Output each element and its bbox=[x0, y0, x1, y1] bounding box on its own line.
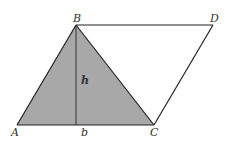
label-d-vertex: D bbox=[209, 12, 219, 25]
label-b-vertex: B bbox=[72, 12, 81, 25]
label-height-h: h bbox=[81, 74, 89, 87]
label-c-vertex: C bbox=[150, 126, 159, 139]
label-a-vertex: A bbox=[10, 126, 19, 139]
label-base-b: b bbox=[81, 126, 88, 139]
parallelogram-diagram: B D A C b h bbox=[0, 0, 231, 144]
edge-dc bbox=[154, 25, 213, 125]
